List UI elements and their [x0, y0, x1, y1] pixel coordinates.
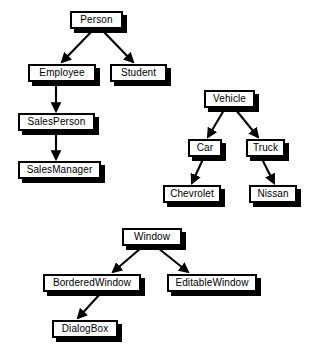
class-node-salesperson[interactable]: SalesPerson — [18, 113, 95, 131]
class-node-window[interactable]: Window — [122, 228, 182, 246]
class-node-car[interactable]: Car — [188, 139, 222, 157]
class-node-truck[interactable]: Truck — [246, 139, 285, 157]
class-node-employee[interactable]: Employee — [28, 64, 96, 82]
inheritance-diagram: PersonEmployeeStudentSalesPersonSalesMan… — [0, 0, 319, 360]
class-node-person[interactable]: Person — [70, 11, 123, 29]
class-node-dialogbox[interactable]: DialogBox — [52, 320, 118, 338]
class-node-borderedwindow[interactable]: BorderedWindow — [43, 274, 141, 292]
class-node-salesmanager[interactable]: SalesManager — [18, 161, 101, 179]
class-node-student[interactable]: Student — [110, 64, 167, 82]
class-node-vehicle[interactable]: Vehicle — [204, 90, 255, 108]
class-node-editablewindow[interactable]: EditableWindow — [167, 274, 257, 292]
class-node-chevrolet[interactable]: Chevrolet — [163, 185, 221, 203]
class-node-nissan[interactable]: Nissan — [249, 185, 297, 203]
node-layer: PersonEmployeeStudentSalesPersonSalesMan… — [0, 0, 319, 360]
